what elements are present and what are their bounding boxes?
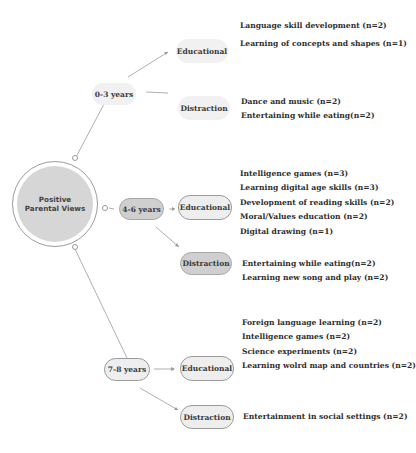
list-item: Language skill development (n=2)	[240, 19, 407, 33]
list-item: Dance and music (n=2)	[241, 95, 374, 109]
list-item: Entertainment in social settings (n=2)	[243, 410, 407, 424]
educational-list-0-3: Language skill development (n=2) Learnin…	[240, 19, 407, 52]
connector-dot-right	[102, 205, 108, 211]
list-item: Digital drawing (n=1)	[240, 225, 394, 239]
list-item: Learning digital age skills (n=3)	[240, 181, 394, 195]
distraction-list-7-8: Entertainment in social settings (n=2)	[243, 410, 407, 424]
distraction-node-0-3: Distraction	[178, 96, 230, 120]
list-item: Entertaining while eating(n=2)	[242, 257, 388, 271]
list-item: Learning wolrd map and countries (n=2)	[242, 359, 416, 373]
list-item: Moral/Values education (n=2)	[240, 210, 394, 224]
list-item: Foreign language learning (n=2)	[242, 316, 416, 330]
educational-list-7-8: Foreign language learning (n=2) Intellig…	[242, 316, 416, 374]
distraction-node-7-8: Distraction	[180, 405, 234, 429]
list-item: Development of reading skills (n=2)	[240, 196, 394, 210]
list-item: Learning new song and play (n=2)	[242, 271, 388, 285]
list-item: Learning of concepts and shapes (n=1)	[240, 37, 407, 51]
age-node-4-6: 4-6 years	[119, 198, 164, 220]
educational-node-4-6: Educational	[178, 195, 232, 220]
distraction-node-4-6: Distraction	[180, 252, 232, 275]
age-node-7-8: 7-8 years	[104, 358, 150, 381]
list-item: Entertaining while eating(n=2)	[241, 109, 374, 123]
root-label-line1: Positive	[25, 195, 85, 204]
list-item: Intelligence games (n=3)	[240, 167, 394, 181]
distraction-list-4-6: Entertaining while eating(n=2) Learning …	[242, 257, 388, 286]
list-item: Intelligence games (n=2)	[242, 330, 416, 344]
educational-node-0-3: Educational	[176, 39, 228, 63]
educational-list-4-6: Intelligence games (n=3) Learning digita…	[240, 167, 394, 239]
connector-dot-top	[72, 155, 78, 161]
root-label-line2: Parental Views	[25, 204, 85, 213]
connector-dot-bottom	[72, 244, 78, 250]
educational-node-7-8: Educational	[180, 356, 234, 381]
root-node: Positive Parental Views	[17, 166, 93, 242]
age-node-0-3: 0-3 years	[92, 83, 136, 105]
list-item: Science experiments (n=2)	[242, 345, 416, 359]
distraction-list-0-3: Dance and music (n=2) Entertaining while…	[241, 95, 374, 124]
